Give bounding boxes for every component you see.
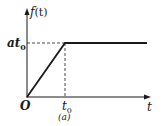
function-curve [27, 43, 147, 97]
y-axis-label: f(t) [30, 6, 47, 18]
x-axis-label: t [147, 101, 152, 113]
y-tick-main: at [7, 36, 20, 50]
origin-label: O [20, 100, 30, 112]
x-axis-arrow-icon [144, 95, 151, 100]
y-tick-sub: 0 [20, 42, 26, 52]
y-axis-label-arg: (t) [34, 6, 47, 19]
figure-caption: (a) [58, 113, 70, 122]
y-tick-label: at0 [7, 37, 26, 51]
y-axis-arrow-icon [25, 8, 30, 15]
